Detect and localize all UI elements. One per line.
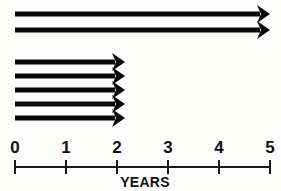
chart-canvas: 012345 YEARS: [0, 0, 281, 191]
axis-title-years: YEARS: [120, 174, 170, 190]
arrow-4: [15, 67, 125, 85]
arrow-5: [15, 81, 125, 99]
axis-tick-label-5: 5: [265, 138, 274, 157]
axis-group: [15, 160, 270, 174]
arrow-2: [15, 21, 270, 39]
arrow-bars-group: [15, 5, 270, 127]
arrow-7: [15, 109, 125, 127]
arrow-6: [15, 95, 125, 113]
axis-tick-label-2: 2: [112, 138, 121, 157]
axis-labels-group: 012345: [10, 138, 274, 157]
arrow-1: [15, 5, 270, 23]
axis-tick-label-3: 3: [163, 138, 172, 157]
timeline-arrow-diagram: 012345 YEARS: [0, 0, 281, 191]
axis-tick-label-1: 1: [61, 138, 70, 157]
axis-tick-label-4: 4: [214, 138, 224, 157]
arrow-3: [15, 53, 125, 71]
axis-tick-label-0: 0: [10, 138, 19, 157]
